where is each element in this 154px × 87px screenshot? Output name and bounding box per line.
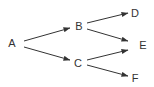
node-e: E <box>139 39 146 51</box>
node-b: B <box>75 20 82 32</box>
tree-diagram: ABCDEF <box>0 0 154 87</box>
arrow-b-to-e <box>87 29 128 41</box>
arrow-a-to-c <box>24 47 70 60</box>
diagram-svg: ABCDEF <box>0 0 154 87</box>
node-f: F <box>132 72 139 84</box>
node-a: A <box>8 37 16 49</box>
arrow-c-to-e <box>87 50 128 60</box>
node-d: D <box>131 7 139 19</box>
arrow-b-to-d <box>87 13 128 23</box>
nodes-group: ABCDEF <box>8 7 146 84</box>
node-c: C <box>74 57 82 69</box>
arrow-c-to-f <box>87 65 128 76</box>
arrow-a-to-b <box>24 28 70 41</box>
